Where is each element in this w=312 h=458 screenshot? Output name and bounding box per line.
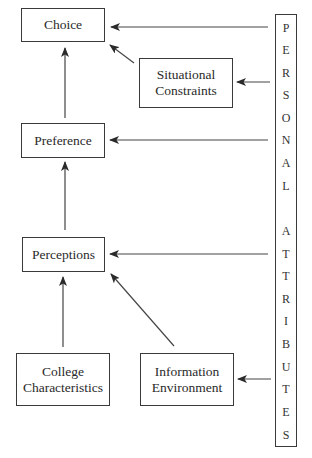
- preference-label: Preference: [34, 133, 92, 149]
- college-characteristics-label: College Characteristics: [23, 364, 103, 396]
- pillar-letter: E: [276, 43, 296, 57]
- situational-constraints-label: Situational Constraints: [155, 67, 217, 99]
- choice-label: Choice: [44, 17, 82, 33]
- pillar-letter: T: [276, 269, 296, 283]
- personal-attributes-pillar: P E R S O N A L A T T R I B U T E S: [275, 14, 297, 447]
- pillar-letter: A: [276, 224, 296, 238]
- pillar-letter: S: [276, 428, 296, 442]
- pillar-letter: T: [276, 382, 296, 396]
- pillar-letter: E: [276, 405, 296, 419]
- perceptions-label: Perceptions: [32, 247, 95, 263]
- pillar-letter: A: [276, 156, 296, 170]
- preference-box: Preference: [21, 123, 105, 158]
- arrow-information-to-perceptions: [111, 274, 174, 346]
- perceptions-box: Perceptions: [22, 237, 105, 272]
- information-environment-label: Information Environment: [152, 364, 223, 396]
- college-characteristics-box: College Characteristics: [16, 353, 110, 406]
- pillar-letter: O: [276, 111, 296, 125]
- situational-constraints-box: Situational Constraints: [139, 58, 233, 108]
- pillar-letter: T: [276, 247, 296, 261]
- pillar-letter: B: [276, 337, 296, 351]
- information-environment-box: Information Environment: [140, 353, 234, 406]
- pillar-letter: P: [276, 21, 296, 35]
- pillar-letter: N: [276, 133, 296, 147]
- pillar-letter: U: [276, 360, 296, 374]
- pillar-letter: I: [276, 314, 296, 328]
- pillar-letter: L: [276, 179, 296, 193]
- pillar-letter: R: [276, 66, 296, 80]
- choice-box: Choice: [21, 8, 105, 42]
- pillar-letter: R: [276, 292, 296, 306]
- pillar-letter: S: [276, 88, 296, 102]
- arrow-constraints-to-choice: [110, 45, 134, 63]
